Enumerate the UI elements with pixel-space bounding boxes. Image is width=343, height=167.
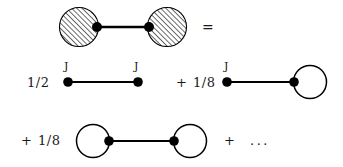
row3-vertex-dot-right <box>169 136 179 146</box>
plus-sign-row2: + <box>176 76 187 89</box>
row1-vertex-dot-right <box>144 22 154 32</box>
vertex-label-J-tadpole: J <box>224 61 228 72</box>
row2-term2-vertex-dot-left <box>222 77 232 87</box>
coefficient-one-half: 1/2 <box>27 76 49 89</box>
row1-dressed-propagator <box>60 8 187 47</box>
equals-sign: = <box>202 20 214 34</box>
row1-vertex-dot-left <box>92 22 102 32</box>
row2-term1-vertex-dot-left <box>63 77 73 87</box>
row2-term1-tree-diagram <box>63 77 143 87</box>
vertex-label-J-right: J <box>134 61 138 72</box>
row2-term2-vertex-dot-loop <box>289 77 299 87</box>
ellipsis-continuation: ... <box>250 134 270 147</box>
row3-vertex-dot-left <box>104 136 114 146</box>
row2-term1-vertex-dot-right <box>133 77 143 87</box>
row3-term-double-loop-diagram <box>77 125 207 158</box>
coefficient-one-eighth-row3: 1/8 <box>38 134 60 147</box>
feynman-diagram-figure: = 1/2 J J + 1/8 J + 1/8 + ... <box>0 0 343 167</box>
coefficient-one-eighth-row2: 1/8 <box>193 76 215 89</box>
plus-sign-row3: + <box>21 134 32 147</box>
vertex-label-J-left: J <box>64 61 68 72</box>
row2-term2-tadpole-diagram <box>222 66 326 99</box>
plus-sign-trailing: + <box>224 134 235 147</box>
